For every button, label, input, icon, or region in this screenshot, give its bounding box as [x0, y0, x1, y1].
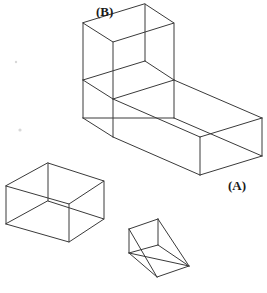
- isometric-solids-figure: (B) (A): [0, 0, 267, 293]
- wedge-left-slant-edge: [129, 229, 157, 277]
- paper-speck: [18, 128, 21, 131]
- wedge-bottom-front-edge: [157, 266, 189, 277]
- slab-bottom-right-end-edge: [200, 156, 262, 175]
- wedge-top-back-edge: [129, 219, 158, 229]
- wedge-right-slant-edge: [158, 219, 189, 266]
- lower-slab: [83, 80, 262, 175]
- upper-block-bottom-front-left-edge: [83, 80, 113, 99]
- paper-speck: [15, 61, 17, 63]
- small-box-top-face: [6, 163, 104, 204]
- slab-top-right-end-edge: [200, 118, 262, 137]
- slab-bottom-left-end-edge: [83, 118, 113, 137]
- slab-top-back-right-edge: [174, 80, 262, 118]
- upper-block-bottom-back-left-edge: [83, 61, 145, 80]
- slab-bottom-front-edge: [113, 137, 200, 175]
- wedge-bottom-back-edge: [129, 245, 158, 253]
- small-box-bottom-face: [6, 201, 104, 242]
- upper-block-bottom-front-right-edge: [113, 80, 174, 99]
- triangular-wedge: [129, 219, 189, 277]
- l-shaped-block: [83, 4, 262, 175]
- small-rectangular-box: [6, 163, 104, 242]
- slab-bottom-back-right-edge: [174, 118, 262, 156]
- wedge-bottom-left-edge: [129, 253, 157, 277]
- label-b: (B): [96, 4, 113, 19]
- upper-block-bottom-back-right-edge: [145, 61, 174, 80]
- label-a: (A): [228, 178, 246, 193]
